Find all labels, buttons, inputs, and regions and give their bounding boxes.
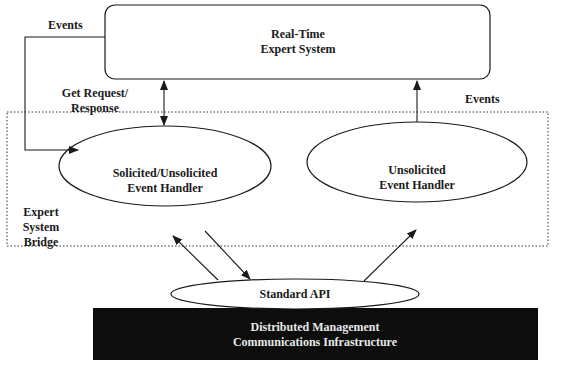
get-request-line1: Get Request/ xyxy=(55,86,135,101)
bridge-label-line3: Bridge xyxy=(20,235,62,250)
edge-api-to-unsolicited xyxy=(364,230,416,281)
infrastructure-label: Distributed Management Communications In… xyxy=(215,320,415,350)
solicited-handler-line2: Event Handler xyxy=(100,181,230,196)
get-request-label: Get Request/ Response xyxy=(55,86,135,116)
bridge-label-line2: System xyxy=(20,220,62,235)
solicited-handler-label: Solicited/Unsolicited Event Handler xyxy=(100,166,230,196)
expert-system-title-line1: Real-Time xyxy=(248,27,348,42)
expert-system-title-line2: Expert System xyxy=(248,42,348,57)
infrastructure-line1: Distributed Management xyxy=(215,320,415,335)
unsolicited-handler-label: Unsolicited Event Handler xyxy=(367,163,467,193)
events-right-label: Events xyxy=(465,92,500,107)
expert-system-bridge-label: Expert System Bridge xyxy=(20,205,62,250)
events-left-label: Events xyxy=(48,18,83,33)
unsolicited-handler-line2: Event Handler xyxy=(367,178,467,193)
unsolicited-handler-line1: Unsolicited xyxy=(367,163,467,178)
infrastructure-line2: Communications Infrastructure xyxy=(215,335,415,350)
edge-solicited-to-api xyxy=(205,231,250,279)
standard-api-label: Standard API xyxy=(240,287,350,302)
bridge-label-line1: Expert xyxy=(20,205,62,220)
solicited-handler-line1: Solicited/Unsolicited xyxy=(100,166,230,181)
get-request-line2: Response xyxy=(55,101,135,116)
expert-system-label: Real-Time Expert System xyxy=(248,27,348,57)
edge-api-to-solicited xyxy=(173,236,218,280)
